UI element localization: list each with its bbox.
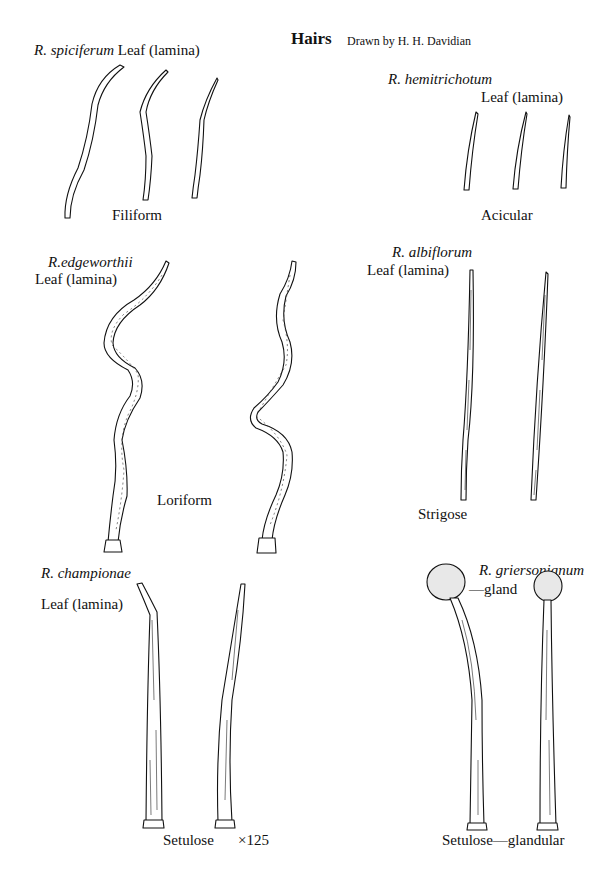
loriform-hair-icon bbox=[104, 261, 296, 553]
setulose-glandular-hair-icon bbox=[427, 564, 562, 830]
strigose-hair-icon bbox=[461, 270, 548, 500]
setulose-hair-icon bbox=[137, 583, 245, 828]
acicular-hair-icon bbox=[464, 112, 570, 190]
filiform-hair-icon bbox=[65, 65, 218, 218]
hair-drawings bbox=[0, 0, 616, 880]
